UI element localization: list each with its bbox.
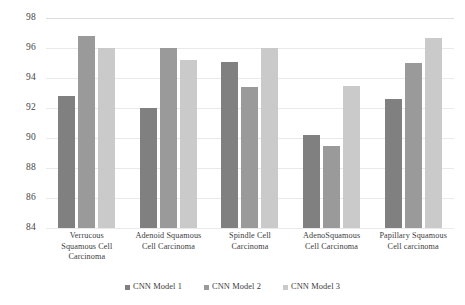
x-axis-label-line: Cell Carcinoma [129,242,209,253]
bar[interactable] [323,146,340,229]
bar[interactable] [160,48,177,228]
legend-item[interactable]: CNN Model 1 [125,283,182,291]
x-axis-label-line: Cell Carcinoma [292,242,372,253]
y-axis: 9896949290888684 [0,18,44,228]
bar-chart: 9896949290888684 VerrucousSquamous CellC… [0,0,465,305]
bar-group [46,18,128,228]
chart-legend: CNN Model 1CNN Model 2CNN Model 3 [0,283,465,291]
bar[interactable] [78,36,95,228]
y-axis-tick: 86 [26,193,36,203]
bar-group [128,18,210,228]
x-axis-label-line: Adenoid Squamous [129,231,209,242]
bar[interactable] [221,62,238,229]
legend-label: CNN Model 1 [133,283,182,291]
bar[interactable] [140,108,157,228]
y-axis-tick: 88 [26,163,36,173]
y-axis-tick: 98 [26,13,36,23]
bars-layer [46,18,454,228]
legend-label: CNN Model 2 [212,283,261,291]
x-axis-label-line: AdenoSquamous [292,231,372,242]
x-axis-label: VerrucousSquamous CellCarcinoma [46,231,128,263]
x-axis-label-line: Squamous Cell [47,242,127,253]
y-axis-tick: 94 [26,73,36,83]
bar[interactable] [241,87,258,228]
bar[interactable] [58,96,75,228]
bar[interactable] [385,99,402,228]
bar[interactable] [98,48,115,228]
legend-swatch-icon [125,285,130,290]
x-axis-label-line: Carcinoma [47,252,127,263]
bar-group [372,18,454,228]
x-axis-label: AdenoSquamousCell Carcinoma [291,231,373,263]
legend-label: CNN Model 3 [291,283,340,291]
bar-group [291,18,373,228]
legend-swatch-icon [204,285,209,290]
bar[interactable] [343,86,360,228]
legend-swatch-icon [283,285,288,290]
bar[interactable] [180,60,197,228]
x-axis-label-line: Spindle Cell [210,231,290,242]
bar[interactable] [405,63,422,228]
legend-item[interactable]: CNN Model 3 [283,283,340,291]
y-axis-tick: 92 [26,103,36,113]
bar[interactable] [303,135,320,228]
y-axis-tick: 96 [26,43,36,53]
bar[interactable] [425,38,442,229]
x-axis-label-line: Carcinoma [210,242,290,253]
y-axis-tick: 84 [26,223,36,233]
x-axis-label: Spindle CellCarcinoma [209,231,291,263]
x-axis-label-line: Cell carcinoma [373,242,453,253]
bar[interactable] [261,48,278,228]
x-axis-label-line: Verrucous [47,231,127,242]
y-axis-tick: 90 [26,133,36,143]
x-axis-label-line: Papillary Squamous [373,231,453,242]
x-axis-label: Adenoid SquamousCell Carcinoma [128,231,210,263]
x-axis-label: Papillary SquamousCell carcinoma [372,231,454,263]
bar-group [209,18,291,228]
legend-item[interactable]: CNN Model 2 [204,283,261,291]
x-axis: VerrucousSquamous CellCarcinomaAdenoid S… [46,231,454,263]
gridline [46,228,454,229]
